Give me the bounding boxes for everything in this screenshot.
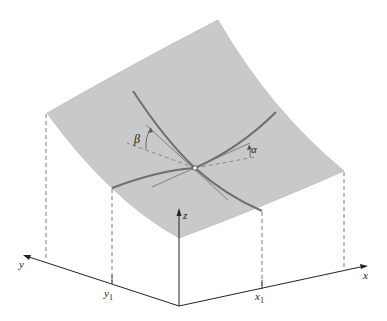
surface-patch <box>47 20 344 238</box>
point-on-surface <box>193 166 197 170</box>
surface-diagram: β α z y x y1 x1 <box>0 0 387 321</box>
z-axis-label: z <box>182 209 188 221</box>
beta-label: β <box>133 132 140 146</box>
x1-label: x1 <box>254 290 264 305</box>
x-axis <box>179 266 365 306</box>
y-axis <box>26 256 179 306</box>
x-axis-label: x <box>362 269 368 281</box>
y1-label: y1 <box>103 287 113 302</box>
y-axis-label: y <box>18 258 24 270</box>
alpha-label: α <box>251 143 257 155</box>
y-axis-arrowhead-icon <box>23 255 31 260</box>
